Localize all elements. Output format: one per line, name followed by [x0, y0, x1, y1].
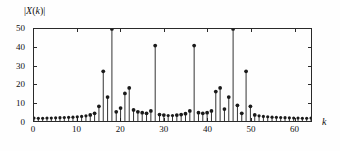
stem-marker	[106, 95, 110, 99]
x-axis-label: k	[322, 116, 326, 127]
stem-marker	[236, 104, 240, 108]
x-tick-label: 10	[67, 124, 87, 134]
y-axis-label: |X(k)|	[24, 5, 45, 16]
y-tick-label: 20	[5, 79, 25, 89]
stem-marker	[253, 113, 257, 117]
stem-marker	[201, 111, 205, 115]
stem-marker	[132, 108, 136, 112]
stem-marker	[218, 86, 222, 90]
stem-marker	[244, 69, 248, 73]
stem-marker	[127, 86, 131, 90]
stem-marker	[227, 95, 231, 99]
stem-marker	[175, 113, 179, 117]
stem-marker	[270, 116, 273, 119]
stem-marker	[158, 113, 162, 117]
dft-magnitude-figure: |X(k)| k 01020304050 0102030405060	[0, 0, 340, 151]
stem-marker	[145, 111, 149, 115]
stem-marker	[34, 116, 36, 119]
stem-marker	[283, 116, 286, 119]
stem-marker	[41, 117, 44, 120]
stem-marker	[93, 111, 97, 115]
stem-marker	[123, 92, 127, 96]
stem-marker	[262, 115, 265, 118]
stem-marker	[240, 111, 244, 115]
stem-marker	[140, 111, 144, 115]
stem-marker	[97, 104, 101, 108]
stem-marker	[249, 104, 253, 108]
stem-marker	[50, 116, 53, 119]
stem-marker	[205, 111, 209, 115]
stem-marker	[288, 116, 291, 119]
stem-marker	[58, 116, 61, 119]
stem-marker	[153, 44, 157, 48]
stem-plot	[34, 29, 311, 121]
stem-marker	[37, 117, 40, 120]
y-axis-label-bar-close: |	[43, 5, 45, 16]
stem-marker	[305, 117, 308, 120]
stem-marker	[71, 116, 74, 119]
stem-marker	[167, 114, 170, 117]
y-tick-label: 30	[5, 61, 25, 71]
stem-marker	[179, 113, 183, 117]
plot-area	[33, 28, 312, 122]
stem-marker	[192, 44, 196, 48]
stem-marker	[301, 117, 304, 120]
stem-marker	[171, 114, 174, 117]
y-tick-label: 0	[5, 117, 25, 127]
stem-marker	[101, 69, 105, 73]
stem-marker	[67, 116, 70, 119]
stem-marker	[45, 116, 48, 119]
stem-marker	[266, 115, 269, 118]
x-tick-label: 30	[154, 124, 174, 134]
stem-marker	[114, 110, 118, 114]
stem-marker	[214, 90, 218, 94]
x-tick-label: 40	[197, 124, 217, 134]
stem-marker	[275, 116, 278, 119]
stem-marker	[119, 106, 123, 110]
stem-marker	[279, 116, 282, 119]
stem-marker	[149, 109, 153, 113]
y-tick-label: 10	[5, 98, 25, 108]
stem-marker	[197, 111, 201, 115]
stem-marker	[76, 115, 79, 118]
stem-marker	[257, 114, 260, 117]
stem-marker	[54, 116, 57, 119]
stem-marker	[309, 116, 311, 119]
stem-marker	[231, 29, 235, 31]
stem-marker	[188, 109, 192, 113]
stem-marker	[223, 107, 227, 111]
stem-marker	[292, 116, 295, 119]
stem-marker	[296, 116, 299, 119]
stem-marker	[110, 29, 114, 31]
y-tick-label: 40	[5, 42, 25, 52]
stem-marker	[80, 115, 83, 118]
stem-marker	[136, 110, 140, 114]
x-tick-label: 60	[285, 124, 305, 134]
x-tick-label: 0	[23, 124, 43, 134]
x-tick-label: 50	[241, 124, 261, 134]
stem-marker	[84, 114, 87, 117]
stem-marker	[210, 109, 214, 113]
stem-marker	[88, 113, 92, 117]
stem-marker	[63, 116, 66, 119]
x-tick-label: 20	[110, 124, 130, 134]
stem-marker	[162, 113, 166, 117]
y-tick-label: 50	[5, 23, 25, 33]
stem-marker	[184, 112, 188, 116]
